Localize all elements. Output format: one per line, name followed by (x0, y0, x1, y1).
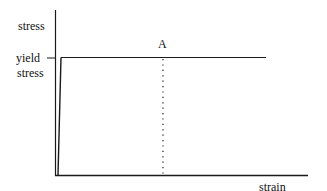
yield-stress-label-line2: stress (17, 67, 44, 80)
y-axis-label: stress (18, 20, 45, 33)
x-axis-label: strain (259, 181, 286, 191)
point-a-label: A (158, 38, 167, 51)
yield-stress-label-line1: yield (16, 52, 40, 65)
stress-strain-diagram: stress yield stress A strain (0, 0, 327, 191)
diagram-canvas (0, 0, 327, 191)
elastic-segment (58, 58, 61, 176)
